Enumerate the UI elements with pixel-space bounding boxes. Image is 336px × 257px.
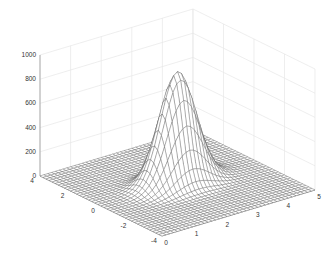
z-tick-label: 400 <box>25 124 36 131</box>
grid-line <box>40 9 193 55</box>
y-tick-label: -2 <box>121 222 127 229</box>
surface-plot: 02004006008001000-4-2024012345 <box>0 0 336 257</box>
wireframe-surface <box>40 72 315 236</box>
x-tick-label: 4 <box>287 202 291 209</box>
x-tick-label: 5 <box>317 193 321 200</box>
y-tick-label: -4 <box>151 237 157 244</box>
y-tick-label: 2 <box>61 192 65 199</box>
y-tick-label: 4 <box>30 177 34 184</box>
z-tick-label: 800 <box>25 75 36 82</box>
x-tick-label: 1 <box>195 230 199 237</box>
z-tick-label: 600 <box>25 99 36 106</box>
y-tick-label: 0 <box>91 207 95 214</box>
x-tick-label: 3 <box>256 211 260 218</box>
x-tick-label: 0 <box>164 239 168 246</box>
grid-line <box>40 33 193 79</box>
surface-plot-figure: 02004006008001000-4-2024012345 <box>0 0 336 257</box>
z-tick-label: 200 <box>25 148 36 155</box>
x-tick-label: 2 <box>225 221 229 228</box>
z-tick-label: 1000 <box>22 51 37 58</box>
